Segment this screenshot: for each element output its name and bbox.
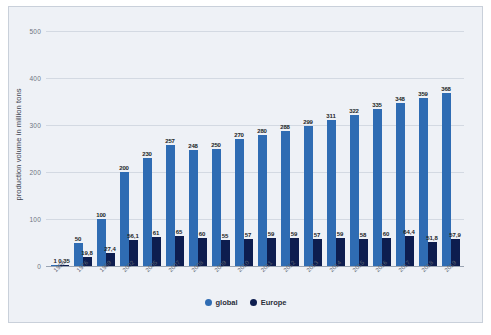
bar-global[interactable]: 1: [51, 22, 60, 266]
bar-group: 28859: [278, 22, 301, 266]
bar-global[interactable]: 322: [350, 22, 359, 266]
bar-global[interactable]: 359: [419, 22, 428, 266]
legend-item-global[interactable]: global: [205, 298, 238, 307]
bar-value-label: 311: [326, 113, 335, 119]
bar-value-label: 280: [257, 128, 267, 134]
bar-global[interactable]: 257: [166, 22, 175, 266]
bar-europe[interactable]: 59: [290, 22, 299, 266]
bar-global[interactable]: 230: [143, 22, 152, 266]
x-axis-tick: 2017: [393, 268, 416, 302]
bar-europe[interactable]: 59: [336, 22, 345, 266]
bar-value-label: 64,4: [403, 229, 414, 235]
y-axis-label: production volume in million tons: [12, 22, 24, 266]
bar-global[interactable]: 250: [212, 22, 221, 266]
bar-global[interactable]: 200: [120, 22, 129, 266]
bar-global[interactable]: 280: [258, 22, 267, 266]
bar-value-label: 288: [280, 124, 290, 130]
bar-europe[interactable]: 56,1: [129, 22, 138, 266]
x-axis-tick: 2005: [140, 268, 163, 302]
x-axis-tick: 2011: [255, 268, 278, 302]
bar-europe[interactable]: 55: [221, 22, 230, 266]
legend-item-europe[interactable]: Europe: [250, 298, 287, 307]
chart-figure: production volume in million tons 010020…: [0, 0, 491, 335]
bar-group: 35951,8: [416, 22, 439, 266]
bar-value-label: 57: [314, 232, 320, 238]
bar-group: 36857,9: [439, 22, 462, 266]
bar-europe[interactable]: 51,8: [428, 22, 437, 266]
bar-rect-global: [258, 135, 267, 266]
bar-europe[interactable]: 59: [267, 22, 276, 266]
bar-europe[interactable]: 0,35: [60, 22, 69, 266]
bar-group: 32258: [347, 22, 370, 266]
bar-value-label: 248: [188, 143, 198, 149]
y-axis-tick-label: 500: [30, 28, 41, 35]
bar-global[interactable]: 270: [235, 22, 244, 266]
bar-value-label: 368: [441, 86, 451, 92]
bar-rect-global: [327, 120, 336, 266]
x-axis-tick: 2014: [324, 268, 347, 302]
bar-rect-global: [189, 150, 198, 266]
bar-value-label: 58: [360, 232, 366, 238]
bar-global[interactable]: 335: [373, 22, 382, 266]
bar-group: 31159: [324, 22, 347, 266]
bar-value-label: 335: [372, 102, 382, 108]
bar-europe[interactable]: 60: [198, 22, 207, 266]
bar-rect-global: [120, 172, 129, 266]
bar-value-label: 59: [291, 231, 297, 237]
bar-value-label: 19,8: [81, 250, 92, 256]
bar-group: 24860: [186, 22, 209, 266]
bar-rect-global: [373, 109, 382, 266]
bar-global[interactable]: 248: [189, 22, 198, 266]
x-axis-tick: 2007: [163, 268, 186, 302]
bar-global[interactable]: 288: [281, 22, 290, 266]
bar-rect-global: [235, 139, 244, 266]
bar-europe[interactable]: 64,4: [405, 22, 414, 266]
x-axis-tick: 2008: [186, 268, 209, 302]
y-axis-tick-label: 200: [30, 169, 41, 176]
bar-group: 28059: [255, 22, 278, 266]
bar-group: 25765: [163, 22, 186, 266]
x-axis-tick: 1989: [94, 268, 117, 302]
bar-europe[interactable]: 61: [152, 22, 161, 266]
bar-group: 33560: [370, 22, 393, 266]
chart-legend: globalEurope: [0, 298, 491, 307]
bar-europe[interactable]: 58: [359, 22, 368, 266]
bar-value-label: 61: [153, 230, 159, 236]
bar-global[interactable]: 50: [74, 22, 83, 266]
bar-rect-global: [97, 219, 106, 266]
x-axis-tick: 2010: [232, 268, 255, 302]
bar-europe[interactable]: 65: [175, 22, 184, 266]
bar-value-label: 51,8: [426, 235, 437, 241]
bar-europe[interactable]: 27,4: [106, 22, 115, 266]
bar-group: 20056,1: [117, 22, 140, 266]
bar-value-label: 200: [119, 165, 129, 171]
bar-group: 27057: [232, 22, 255, 266]
bar-value-label: 1: [53, 258, 56, 264]
bar-europe[interactable]: 57: [313, 22, 322, 266]
bar-europe[interactable]: 60: [382, 22, 391, 266]
bar-value-label: 50: [75, 236, 81, 242]
bar-value-label: 348: [395, 96, 405, 102]
legend-swatch-icon: [205, 299, 212, 306]
x-axis-tick: 2016: [370, 268, 393, 302]
bar-europe[interactable]: 57: [244, 22, 253, 266]
bar-group: 5019,8: [71, 22, 94, 266]
y-axis-tick-label: 100: [30, 216, 41, 223]
bar-rect-global: [442, 93, 451, 266]
bar-global[interactable]: 368: [442, 22, 451, 266]
bar-group: 10,35: [48, 22, 71, 266]
bar-global[interactable]: 100: [97, 22, 106, 266]
y-axis-tick-label: 300: [30, 122, 41, 129]
bar-global[interactable]: 311: [327, 22, 336, 266]
bar-europe[interactable]: 19,8: [83, 22, 92, 266]
x-axis-tick: 1950: [48, 268, 71, 302]
bar-europe[interactable]: 57,9: [451, 22, 460, 266]
bar-rect-global: [396, 103, 405, 266]
bar-global[interactable]: 299: [304, 22, 313, 266]
bar-value-label: 359: [418, 91, 428, 97]
x-axis-tick-labels: 1950197619892002200520072008200920102011…: [46, 268, 464, 302]
bar-rect-global: [304, 126, 313, 266]
bar-value-label: 257: [165, 138, 175, 144]
bar-group: 34864,4: [393, 22, 416, 266]
bar-rect-global: [350, 115, 359, 266]
